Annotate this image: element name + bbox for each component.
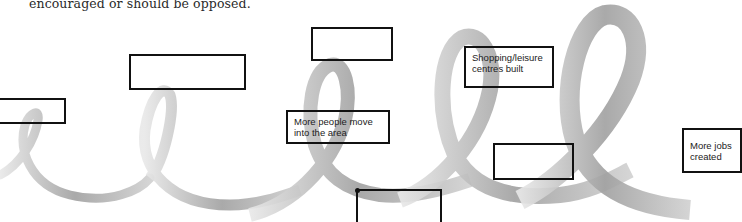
flow-box-a: [0, 98, 66, 124]
flow-box-more-jobs: More jobs created: [682, 128, 742, 173]
flow-box-b: [129, 54, 246, 90]
box-label: More jobs created: [690, 140, 732, 162]
flow-box-f: [493, 143, 574, 180]
flow-box-shopping-leisure: Shopping/leisure centres built: [464, 46, 554, 88]
box-label: Shopping/leisure centres built: [472, 52, 543, 74]
flow-box-people-move-in: More people move into the area: [286, 110, 390, 144]
flow-box-g: [356, 189, 442, 222]
connector-dot: [355, 188, 360, 193]
box-label: More people move into the area: [294, 116, 373, 138]
flow-box-c: [311, 27, 393, 61]
